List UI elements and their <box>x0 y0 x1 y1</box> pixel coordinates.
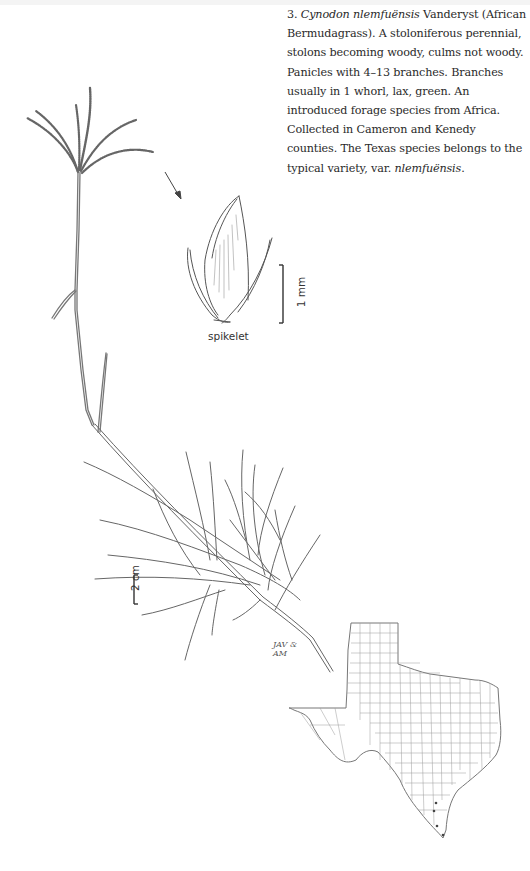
signature-line-2: AM <box>273 649 297 658</box>
spikelet-label: spikelet <box>208 330 249 342</box>
arrow-icon <box>165 172 181 199</box>
cm-scale-label: 2 cm <box>129 565 141 591</box>
collection-markers <box>433 802 445 837</box>
panicle-icon <box>27 88 153 173</box>
leafy-base-icon <box>84 424 333 672</box>
mm-scale-bar-icon <box>279 265 283 323</box>
culm-icon <box>52 172 107 432</box>
mm-scale-label: 1 mm <box>295 277 307 307</box>
artist-signature: JAV & AM <box>273 640 297 658</box>
texas-map-icon <box>289 623 501 838</box>
spikelet-icon <box>187 196 272 323</box>
signature-line-1: JAV & <box>273 640 297 649</box>
botanical-illustration <box>0 0 530 871</box>
